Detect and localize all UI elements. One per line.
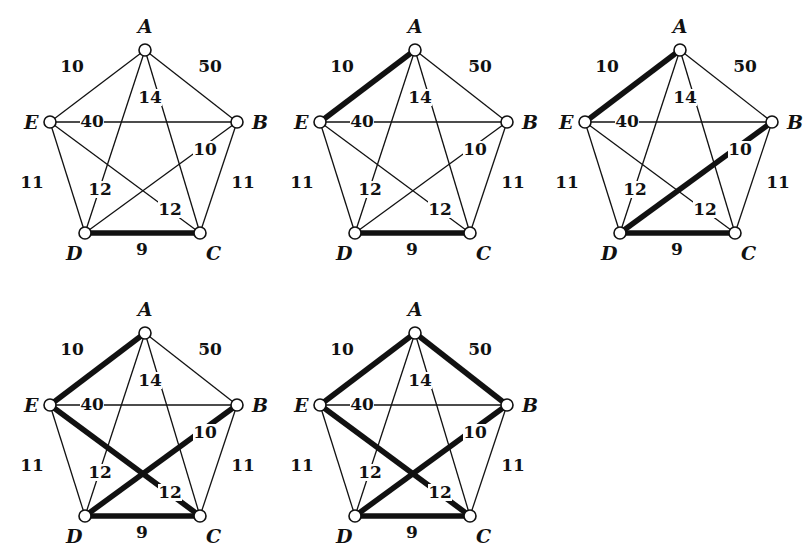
node-d — [614, 227, 626, 239]
weight-label-ec: 12 — [158, 482, 182, 502]
edge-ad — [355, 333, 415, 516]
edge-ad — [85, 333, 145, 516]
weight-label-ed: 11 — [290, 455, 314, 475]
node-b — [766, 116, 778, 128]
node-b — [501, 399, 513, 411]
weight-label-eb: 40 — [80, 394, 104, 414]
node-label-b: B — [786, 111, 803, 133]
graph-step-3: 1050141240101211119ABCDE — [535, 0, 805, 277]
node-label-a: A — [406, 298, 423, 320]
edge-ab — [680, 50, 772, 122]
weight-label-ad: 12 — [88, 179, 112, 199]
node-e — [314, 116, 326, 128]
node-label-c: C — [476, 242, 491, 264]
weight-label-bd: 10 — [463, 139, 487, 159]
node-label-c: C — [741, 242, 756, 264]
weight-label-eb: 40 — [615, 111, 639, 131]
weight-label-ae: 10 — [595, 56, 619, 76]
weight-label-bd: 10 — [728, 139, 752, 159]
graph-step-1: 1050141240101211119ABCDE — [0, 0, 270, 277]
edge-ed — [50, 405, 85, 516]
edge-ed — [320, 122, 355, 233]
weight-label-eb: 40 — [80, 111, 104, 131]
node-label-d: D — [65, 242, 83, 264]
weight-label-ae: 10 — [330, 56, 354, 76]
node-c — [194, 227, 206, 239]
weight-label-dc: 9 — [671, 239, 683, 259]
graph-step-4: 1050141240101211119ABCDE — [0, 283, 270, 554]
node-b — [231, 399, 243, 411]
weight-label-ed: 11 — [20, 455, 44, 475]
weight-label-ae: 10 — [60, 56, 84, 76]
node-b — [501, 116, 513, 128]
node-a — [139, 327, 151, 339]
edge-ad — [620, 50, 680, 233]
node-d — [349, 227, 361, 239]
weight-label-bc: 11 — [231, 172, 255, 192]
node-label-e: E — [23, 394, 39, 416]
node-d — [79, 510, 91, 522]
weight-label-ac: 14 — [408, 87, 432, 107]
edge-ad — [355, 50, 415, 233]
weight-label-ab: 50 — [198, 339, 222, 359]
node-e — [44, 399, 56, 411]
node-a — [409, 44, 421, 56]
node-c — [464, 227, 476, 239]
node-label-b: B — [251, 111, 268, 133]
weight-label-bc: 11 — [766, 172, 790, 192]
weight-label-bd: 10 — [463, 422, 487, 442]
edge-ab — [145, 333, 237, 405]
edge-ab — [415, 333, 507, 405]
node-d — [79, 227, 91, 239]
weight-label-ec: 12 — [428, 199, 452, 219]
node-c — [729, 227, 741, 239]
node-label-c: C — [206, 242, 221, 264]
node-e — [579, 116, 591, 128]
weight-label-ac: 14 — [673, 87, 697, 107]
node-c — [464, 510, 476, 522]
weight-label-ad: 12 — [358, 462, 382, 482]
weight-label-ad: 12 — [623, 179, 647, 199]
node-label-e: E — [558, 111, 574, 133]
node-label-a: A — [136, 298, 153, 320]
weight-label-ae: 10 — [330, 339, 354, 359]
weight-label-dc: 9 — [406, 239, 418, 259]
node-c — [194, 510, 206, 522]
node-label-e: E — [293, 394, 309, 416]
weight-label-dc: 9 — [136, 522, 148, 542]
node-a — [409, 327, 421, 339]
node-label-b: B — [251, 394, 268, 416]
node-label-a: A — [671, 15, 688, 37]
weight-label-dc: 9 — [136, 239, 148, 259]
edge-ed — [320, 405, 355, 516]
weight-label-bc: 11 — [501, 172, 525, 192]
weight-label-ed: 11 — [290, 172, 314, 192]
weight-label-ab: 50 — [468, 56, 492, 76]
edge-ed — [585, 122, 620, 233]
weight-label-ad: 12 — [88, 462, 112, 482]
weight-label-bd: 10 — [193, 422, 217, 442]
weight-label-bc: 11 — [231, 455, 255, 475]
weight-label-dc: 9 — [406, 522, 418, 542]
weight-label-eb: 40 — [350, 394, 374, 414]
edge-ad — [85, 50, 145, 233]
edge-ed — [50, 122, 85, 233]
node-label-b: B — [521, 394, 538, 416]
node-e — [44, 116, 56, 128]
node-label-d: D — [335, 242, 353, 264]
weight-label-ad: 12 — [358, 179, 382, 199]
weight-label-ab: 50 — [468, 339, 492, 359]
weight-label-eb: 40 — [350, 111, 374, 131]
node-label-a: A — [406, 15, 423, 37]
graph-step-5: 1050141240101211119ABCDE — [270, 283, 540, 554]
node-label-d: D — [65, 525, 83, 547]
node-label-c: C — [476, 525, 491, 547]
weight-label-ed: 11 — [555, 172, 579, 192]
weight-label-ac: 14 — [408, 370, 432, 390]
weight-label-ec: 12 — [693, 199, 717, 219]
weight-label-ae: 10 — [60, 339, 84, 359]
weight-label-ec: 12 — [158, 199, 182, 219]
edge-ab — [145, 50, 237, 122]
weight-label-ec: 12 — [428, 482, 452, 502]
node-label-d: D — [600, 242, 618, 264]
